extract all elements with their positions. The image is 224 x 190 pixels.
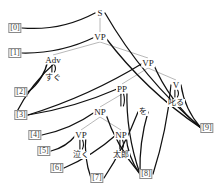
- word-link-t_sugu-b: [54, 65, 55, 72]
- word-link-t_wo-b: [123, 94, 124, 106]
- index-7: [7]: [90, 173, 103, 183]
- index-5: [5]: [37, 146, 50, 156]
- node-V: V: [172, 81, 181, 90]
- node-Adv: Adv: [44, 56, 62, 65]
- span-arc-right-PP: [127, 89, 140, 174]
- span-arc-left-VP3: [51, 135, 76, 151]
- index-6: [6]: [50, 163, 63, 173]
- span-arc-left-VP1: [22, 37, 95, 53]
- terminal-t_naku: 泣く: [72, 151, 90, 159]
- node-NP1: NP: [93, 108, 107, 117]
- tree-edge-VP2-V: [148, 68, 176, 80]
- tree-edge-VP1-Adv: [53, 42, 100, 55]
- index-3: [3]: [14, 110, 27, 120]
- parse-tree-diagram: SVPAdvVPPPVNPVPNPすぐを叱る泣く太郎[0][1][2][3][4…: [0, 0, 224, 190]
- node-VP2: VP: [141, 59, 155, 68]
- index-2: [2]: [14, 87, 27, 97]
- index-4: [4]: [28, 130, 41, 140]
- span-arc-right-t_wo: [140, 112, 148, 174]
- index-9: [9]: [200, 123, 213, 133]
- index-0: [0]: [8, 23, 21, 33]
- terminal-t_shikaru: 叱る: [167, 99, 185, 107]
- node-VP1: VP: [93, 33, 107, 42]
- node-NP2: NP: [114, 131, 128, 140]
- node-PP: PP: [116, 85, 128, 94]
- tree-edges-canvas: [0, 0, 224, 190]
- terminal-t_taro: 太郎: [112, 151, 130, 159]
- terminal-t_wo: を: [138, 108, 148, 116]
- tree-edge-VP1-VP2: [100, 42, 148, 58]
- tree-edge-PP-NP1: [100, 94, 122, 107]
- index-8: [8]: [139, 169, 152, 179]
- index-1: [1]: [8, 48, 21, 58]
- word-link-t_shikaru-b: [177, 90, 178, 97]
- node-S: S: [96, 9, 103, 18]
- node-VP3: VP: [74, 131, 88, 140]
- word-link-t_naku-b: [82, 140, 83, 149]
- span-arc-left-S: [22, 13, 95, 28]
- terminal-t_sugu: すぐ: [44, 74, 62, 82]
